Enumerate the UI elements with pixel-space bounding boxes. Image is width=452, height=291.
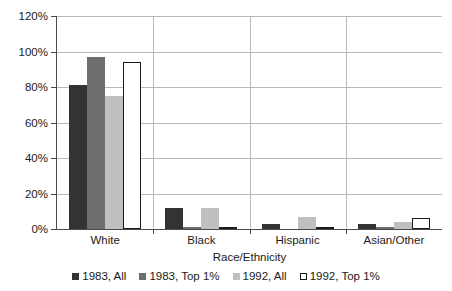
legend-label: 1983, Top 1%: [149, 270, 219, 282]
y-axis-tick-label: 0%: [0, 223, 48, 235]
y-axis-tick-label: 60%: [0, 117, 48, 129]
bar-group-asian-other: [346, 16, 442, 229]
y-axis-tick-label: 120%: [0, 10, 48, 22]
x-axis-category-labels: WhiteBlackHispanicAsian/Other: [57, 234, 442, 246]
x-axis-category-label: Asian/Other: [346, 234, 442, 246]
bar: [105, 96, 123, 229]
bar: [298, 217, 316, 229]
x-axis-category-label: Black: [153, 234, 249, 246]
bar: [358, 224, 376, 229]
y-axis-tick-label: 80%: [0, 81, 48, 93]
bar-group-white: [57, 16, 153, 229]
y-axis-tick-label: 100%: [0, 46, 48, 58]
legend-label: 1992, All: [243, 270, 287, 282]
bar: [183, 227, 201, 229]
bar: [376, 227, 394, 229]
legend-swatch-icon: [139, 273, 146, 280]
bar: [69, 85, 87, 229]
chart-legend: 1983, All1983, Top 1%1992, All1992, Top …: [0, 270, 452, 282]
legend-item[interactable]: 1992, All: [233, 270, 287, 282]
legend-label: 1992, Top 1%: [310, 270, 380, 282]
bar: [412, 218, 430, 229]
legend-label: 1983, All: [82, 270, 126, 282]
bar: [394, 222, 412, 229]
x-axis-category-label: White: [57, 234, 153, 246]
bar: [219, 227, 237, 229]
legend-item[interactable]: 1983, Top 1%: [139, 270, 219, 282]
bar-group-hispanic: [250, 16, 346, 229]
bar: [262, 224, 280, 229]
legend-swatch-icon: [300, 273, 307, 280]
bar-group-black: [153, 16, 249, 229]
bar: [87, 57, 105, 229]
bar-groups: [57, 16, 442, 229]
y-axis-tick-label: 40%: [0, 152, 48, 164]
bar: [201, 208, 219, 229]
legend-item[interactable]: 1992, Top 1%: [300, 270, 380, 282]
legend-swatch-icon: [233, 273, 240, 280]
bar: [123, 62, 141, 229]
bar: [316, 227, 334, 229]
y-axis-tick-label: 20%: [0, 188, 48, 200]
x-axis-category-label: Hispanic: [250, 234, 346, 246]
legend-swatch-icon: [72, 273, 79, 280]
legend-item[interactable]: 1983, All: [72, 270, 126, 282]
bar-chart: 120%100%80%60%40%20%0% WhiteBlackHispani…: [0, 0, 452, 291]
bar: [165, 208, 183, 229]
x-axis-title: Race/Ethnicity: [57, 251, 442, 263]
